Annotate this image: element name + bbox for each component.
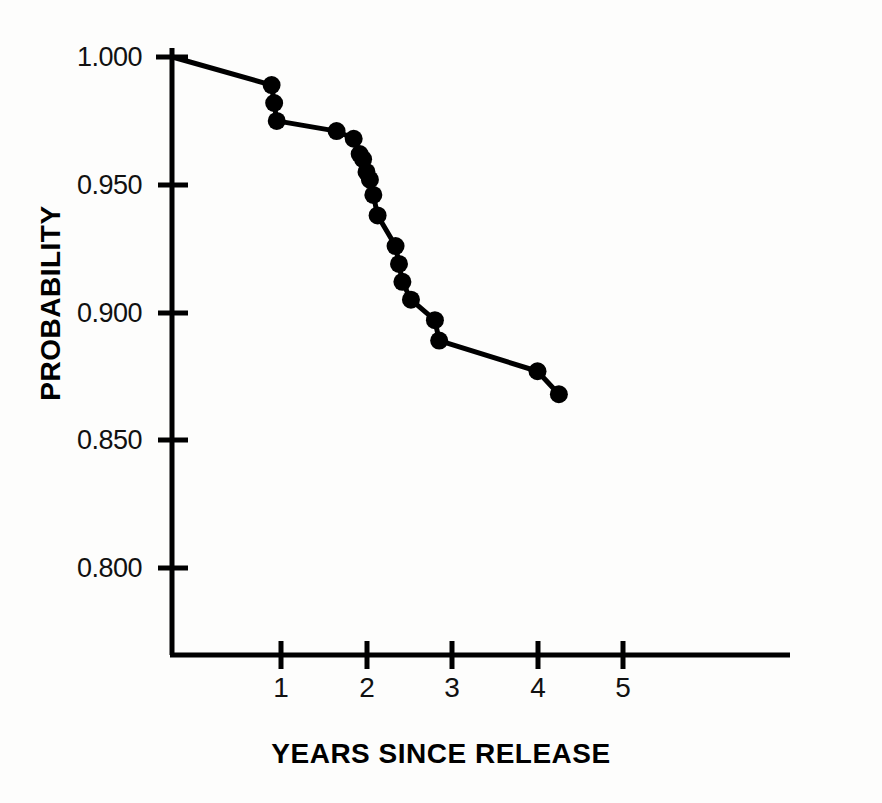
data-point xyxy=(263,76,281,94)
data-point xyxy=(268,112,286,130)
x-tick-label-3: 3 xyxy=(432,672,472,704)
x-tick-label-2: 2 xyxy=(347,672,387,704)
data-point xyxy=(426,311,444,329)
data-point xyxy=(361,171,379,189)
data-point xyxy=(265,94,283,112)
data-point xyxy=(402,291,420,309)
data-point xyxy=(328,122,346,140)
data-point xyxy=(364,186,382,204)
y-tick-label-0800: 0.800 xyxy=(20,553,142,584)
data-point xyxy=(390,255,408,273)
chart-figure: 1.000 0.950 0.900 0.850 0.800 1 2 3 4 5 … xyxy=(0,0,882,803)
survival-curve-line xyxy=(172,57,558,394)
y-tick-label-1000: 1.000 xyxy=(20,42,142,73)
x-tick-label-1: 1 xyxy=(261,672,301,704)
data-point xyxy=(393,273,411,291)
x-tick-label-5: 5 xyxy=(603,672,643,704)
data-point xyxy=(387,237,405,255)
x-axis-title: YEARS SINCE RELEASE xyxy=(0,738,882,770)
data-point xyxy=(345,130,363,148)
data-point xyxy=(369,206,387,224)
x-tick-label-4: 4 xyxy=(518,672,558,704)
y-axis-title: PROBABILITY xyxy=(35,153,67,453)
data-point xyxy=(430,332,448,350)
data-point xyxy=(529,362,547,380)
data-point xyxy=(550,385,568,403)
